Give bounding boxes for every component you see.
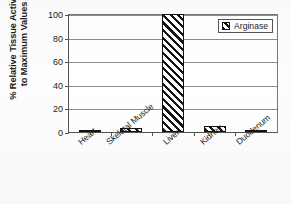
legend-hatch-swatch-icon	[222, 22, 230, 30]
x-tick-mark-3	[194, 132, 195, 136]
y-tick-mark-40	[65, 86, 69, 87]
y-tick-label-40: 40	[53, 81, 63, 91]
y-tick-label-80: 80	[53, 34, 63, 44]
y-tick-label-20: 20	[53, 104, 63, 114]
y-tick-mark-20	[65, 109, 69, 110]
y-tick-mark-80	[65, 39, 69, 40]
y-tick-mark-100	[65, 15, 69, 16]
y-axis-title-line-1: % Relative Tissue Activity	[8, 0, 20, 100]
y-axis-title: % Relative Tissue Activity to Maximum Va…	[2, 0, 36, 110]
x-tick-mark-2	[152, 132, 153, 136]
y-tick-label-0: 0	[58, 128, 63, 138]
y-tick-mark-0	[65, 133, 69, 134]
legend-label-arginase: Arginase	[234, 21, 268, 31]
y-axis-title-line-2: to Maximum Values	[19, 2, 31, 87]
chart-figure: % Relative Tissue Activity to Maximum Va…	[0, 0, 291, 204]
y-tick-label-60: 60	[53, 57, 63, 67]
y-tick-label-100: 100	[48, 10, 63, 20]
chart-legend: Arginase	[218, 19, 273, 33]
plot-area: 100 80 60 40 20 0 Arginase	[68, 14, 278, 133]
bar-liver	[162, 14, 184, 132]
y-tick-mark-60	[65, 62, 69, 63]
